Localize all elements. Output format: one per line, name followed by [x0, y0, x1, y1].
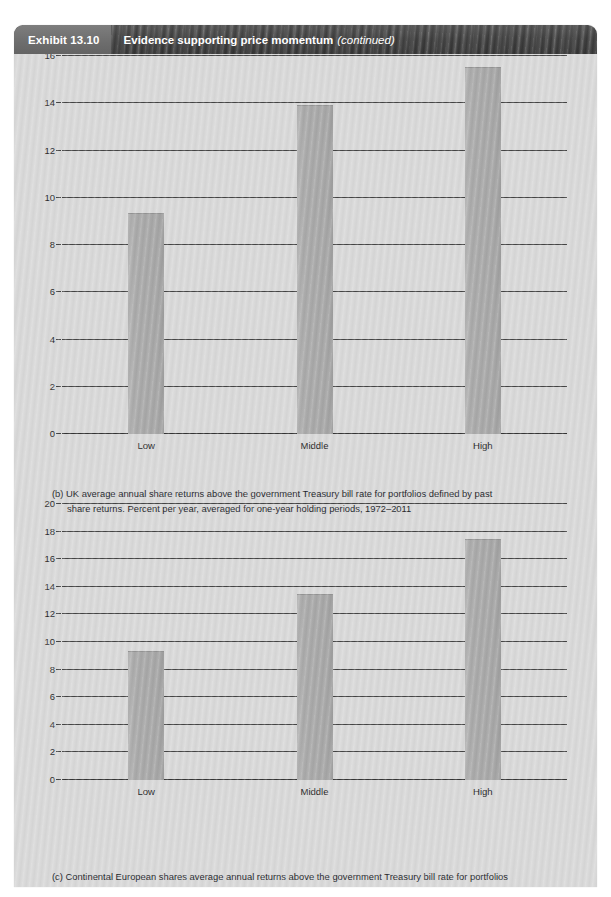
tick-mark-c-20: [56, 503, 61, 504]
tick-mark-c-2: [56, 751, 61, 752]
bar-b-low: [128, 213, 164, 434]
y-axis-tick-label-c-12: 12: [44, 608, 55, 619]
tick-mark-c-6: [56, 696, 61, 697]
tick-mark-b-12: [56, 150, 61, 151]
bar-b-high: [465, 67, 501, 434]
gridline-c-18: [62, 531, 567, 532]
y-axis-tick-label-b-14: 14: [44, 97, 55, 108]
chart-b-caption-line1: (b) UK average annual share returns abov…: [52, 488, 492, 499]
tick-mark-c-0: [56, 779, 61, 780]
bar-c-low: [128, 651, 164, 780]
exhibit-title-bar: Exhibit 13.10 Evidence supporting price …: [14, 25, 597, 54]
y-axis-tick-label-c-10: 10: [44, 636, 55, 647]
gridline-b-16: [62, 55, 567, 56]
y-axis-tick-label-c-6: 6: [50, 691, 55, 702]
y-axis-tick-label-b-0: 0: [50, 428, 55, 439]
tick-mark-c-14: [56, 586, 61, 587]
y-axis-tick-label-b-6: 6: [50, 286, 55, 297]
tick-mark-c-8: [56, 669, 61, 670]
tick-mark-c-10: [56, 641, 61, 642]
tick-mark-c-18: [56, 531, 61, 532]
chart-b-container: 0246810121416LowMiddleHigh: [14, 55, 597, 455]
y-axis-tick-label-c-20: 20: [44, 498, 55, 509]
y-axis-tick-label-b-12: 12: [44, 144, 55, 155]
chart-c-caption-line2: defined by past share returns. Percent p…: [52, 885, 572, 888]
y-axis-tick-label-c-4: 4: [50, 718, 55, 729]
y-axis-tick-label-c-16: 16: [44, 553, 55, 564]
tick-mark-b-14: [56, 102, 61, 103]
x-axis-label-c-middle: Middle: [301, 786, 329, 797]
tick-mark-b-16: [56, 55, 61, 56]
chart-c-caption: (c) Continental European shares average …: [52, 870, 572, 887]
chart-c-caption-line1: (c) Continental European shares average …: [52, 871, 508, 882]
y-axis-tick-label-b-4: 4: [50, 333, 55, 344]
x-axis-label-b-middle: Middle: [301, 440, 329, 451]
chart-b-plot-area: 0246810121416LowMiddleHigh: [62, 55, 567, 433]
gridline-c-20: [62, 503, 567, 504]
exhibit-panel: Exhibit 13.10 Evidence supporting price …: [14, 25, 597, 887]
chart-c-container: 02468101214161820LowMiddleHigh: [14, 503, 597, 801]
exhibit-continued-label: (continued): [333, 34, 395, 46]
tick-mark-b-2: [56, 386, 61, 387]
tick-mark-b-8: [56, 244, 61, 245]
exhibit-number-tag: Exhibit 13.10: [14, 25, 111, 54]
exhibit-number-label: Exhibit 13.10: [28, 34, 100, 46]
y-axis-tick-label-b-10: 10: [44, 191, 55, 202]
bar-b-middle: [297, 105, 333, 434]
x-axis-label-c-high: High: [473, 786, 493, 797]
x-axis-label-b-high: High: [473, 440, 493, 451]
y-axis-tick-label-c-0: 0: [50, 774, 55, 785]
y-axis-tick-label-c-18: 18: [44, 525, 55, 536]
tick-mark-b-4: [56, 339, 61, 340]
tick-mark-b-10: [56, 197, 61, 198]
y-axis-tick-label-b-8: 8: [50, 239, 55, 250]
tick-mark-b-6: [56, 291, 61, 292]
exhibit-title: Evidence supporting price momentum (cont…: [111, 25, 395, 54]
y-axis-tick-label-b-2: 2: [50, 380, 55, 391]
y-axis-tick-label-c-2: 2: [50, 746, 55, 757]
tick-mark-c-16: [56, 558, 61, 559]
exhibit-title-text: Evidence supporting price momentum: [124, 34, 334, 46]
x-axis-label-c-low: Low: [137, 786, 154, 797]
x-axis-label-b-low: Low: [137, 440, 154, 451]
bar-c-middle: [297, 594, 333, 780]
tick-mark-c-4: [56, 724, 61, 725]
chart-c-plot-area: 02468101214161820LowMiddleHigh: [62, 503, 567, 779]
bar-c-high: [465, 539, 501, 780]
tick-mark-c-12: [56, 613, 61, 614]
y-axis-tick-label-c-14: 14: [44, 580, 55, 591]
tick-mark-b-0: [56, 433, 61, 434]
y-axis-tick-label-c-8: 8: [50, 663, 55, 674]
